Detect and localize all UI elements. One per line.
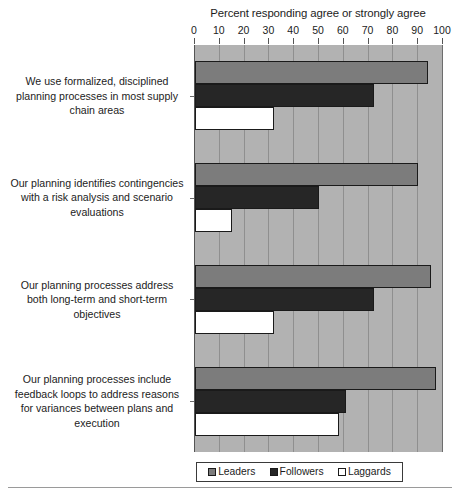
x-axis-tick-labels: 0102030405060708090100 xyxy=(194,24,442,38)
bar-laggards-1 xyxy=(195,107,274,130)
x-tick-mark-40 xyxy=(293,38,294,44)
bar-group-4 xyxy=(195,367,443,436)
bar-leaders-3 xyxy=(195,265,431,288)
legend-label: Leaders xyxy=(218,466,255,478)
legend-item-laggards[interactable]: Laggards xyxy=(338,466,391,478)
category-label-line: with a risk analysis and scenario xyxy=(4,190,190,205)
bar-followers-1 xyxy=(195,84,374,107)
category-label-line: objectives xyxy=(4,307,190,322)
category-label-1: We use formalized, disciplinedplanning p… xyxy=(4,74,190,118)
bottom-divider xyxy=(8,487,452,488)
x-tick-mark-30 xyxy=(268,38,269,44)
chart-title: Percent responding agree or strongly agr… xyxy=(192,6,444,20)
x-axis-tick-marks xyxy=(194,38,443,45)
x-tick-mark-10 xyxy=(219,38,220,44)
x-tick-mark-0 xyxy=(194,38,195,44)
bar-followers-2 xyxy=(195,186,319,209)
bar-laggards-4 xyxy=(195,413,339,436)
x-tick-label-90: 90 xyxy=(411,24,423,36)
category-label-line: Our planning processes include xyxy=(4,372,190,387)
x-tick-mark-50 xyxy=(318,38,319,44)
chart-legend: LeadersFollowersLaggards xyxy=(196,462,403,482)
bar-followers-3 xyxy=(195,288,374,311)
x-tick-label-70: 70 xyxy=(362,24,374,36)
category-label-2: Our planning identifies contingencieswit… xyxy=(4,176,190,220)
category-label-line: Our planning processes address xyxy=(4,278,190,293)
x-tick-label-80: 80 xyxy=(387,24,399,36)
category-axis-labels: We use formalized, disciplinedplanning p… xyxy=(4,45,190,452)
x-tick-mark-20 xyxy=(244,38,245,44)
legend-label: Laggards xyxy=(348,466,391,478)
bar-leaders-2 xyxy=(195,163,418,186)
x-tick-label-40: 40 xyxy=(287,24,299,36)
x-tick-label-60: 60 xyxy=(337,24,349,36)
bar-leaders-4 xyxy=(195,367,436,390)
category-label-line: Our planning identifies contingencies xyxy=(4,176,190,191)
bar-laggards-3 xyxy=(195,311,274,334)
x-tick-mark-90 xyxy=(417,38,418,44)
x-tick-label-10: 10 xyxy=(213,24,225,36)
legend-item-followers[interactable]: Followers xyxy=(270,466,324,478)
x-tick-label-30: 30 xyxy=(263,24,275,36)
legend-swatch-followers-icon xyxy=(270,468,278,476)
category-label-line: both long-term and short-term xyxy=(4,292,190,307)
bar-group-2 xyxy=(195,163,443,232)
bar-laggards-2 xyxy=(195,209,232,232)
x-tick-mark-60 xyxy=(343,38,344,44)
category-label-4: Our planning processes includefeedback l… xyxy=(4,372,190,430)
category-label-line: for variances between plans and xyxy=(4,401,190,416)
plot-area xyxy=(194,45,443,452)
bar-group-1 xyxy=(195,61,443,130)
x-tick-mark-80 xyxy=(392,38,393,44)
x-tick-mark-70 xyxy=(368,38,369,44)
legend-item-leaders[interactable]: Leaders xyxy=(208,466,255,478)
x-tick-mark-100 xyxy=(442,38,443,44)
x-tick-label-100: 100 xyxy=(433,24,451,36)
bar-followers-4 xyxy=(195,390,346,413)
x-tick-label-0: 0 xyxy=(191,24,197,36)
bar-leaders-1 xyxy=(195,61,428,84)
category-label-line: feedback loops to address reasons xyxy=(4,387,190,402)
category-label-line: execution xyxy=(4,416,190,431)
legend-label: Followers xyxy=(280,466,324,478)
category-label-line: chain areas xyxy=(4,103,190,118)
bar-chart-figure: Percent responding agree or strongly agr… xyxy=(0,0,460,495)
x-tick-label-20: 20 xyxy=(238,24,250,36)
legend-swatch-laggards-icon xyxy=(338,468,346,476)
legend-swatch-leaders-icon xyxy=(208,468,216,476)
bar-group-3 xyxy=(195,265,443,334)
category-label-line: evaluations xyxy=(4,205,190,220)
category-label-line: planning processes in most supply xyxy=(4,89,190,104)
category-label-3: Our planning processes addressboth long-… xyxy=(4,278,190,322)
category-label-line: We use formalized, disciplined xyxy=(4,74,190,89)
x-tick-label-50: 50 xyxy=(312,24,324,36)
